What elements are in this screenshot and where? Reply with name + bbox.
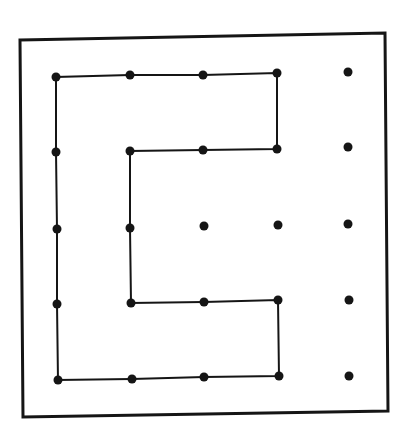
- grid-dot-r3-c0: [53, 300, 62, 309]
- grid-dot-r4-c1: [128, 375, 137, 384]
- dot-grid: [52, 68, 354, 385]
- grid-dot-r0-c4: [344, 68, 353, 77]
- grid-dot-r3-c3: [274, 296, 283, 305]
- grid-dot-r3-c2: [200, 298, 209, 307]
- grid-dot-r0-c1: [126, 71, 135, 80]
- connecting-path: [56, 73, 279, 380]
- grid-dot-r0-c3: [273, 69, 282, 78]
- grid-dot-r2-c2: [200, 222, 209, 231]
- grid-dot-r4-c2: [200, 373, 209, 382]
- grid-dot-r1-c3: [273, 145, 282, 154]
- dot-grid-diagram: [0, 0, 402, 432]
- grid-dot-r4-c3: [275, 372, 284, 381]
- grid-dot-r1-c2: [199, 146, 208, 155]
- grid-dot-r1-c1: [126, 147, 135, 156]
- grid-dot-r4-c4: [345, 372, 354, 381]
- grid-dot-r1-c0: [52, 148, 61, 157]
- grid-dot-r0-c2: [199, 71, 208, 80]
- grid-dot-r4-c0: [54, 376, 63, 385]
- grid-dot-r3-c1: [127, 299, 136, 308]
- grid-dot-r0-c0: [52, 73, 61, 82]
- grid-dot-r2-c0: [53, 225, 62, 234]
- grid-dot-r2-c1: [126, 224, 135, 233]
- grid-dot-r3-c4: [345, 296, 354, 305]
- grid-dot-r2-c3: [274, 221, 283, 230]
- grid-dot-r1-c4: [344, 143, 353, 152]
- grid-dot-r2-c4: [344, 220, 353, 229]
